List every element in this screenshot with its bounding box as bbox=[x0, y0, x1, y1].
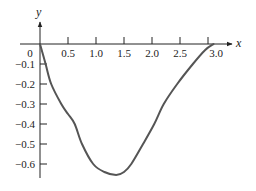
x-axis-label: x bbox=[235, 36, 242, 50]
y-tick-label: −0.6 bbox=[15, 158, 35, 170]
x-ticks: 00.51.01.52.02.53.0 bbox=[27, 37, 223, 59]
y-tick-label: −0.2 bbox=[15, 78, 35, 90]
y-ticks: −0.1−0.2−0.3−0.4−0.5−0.6 bbox=[15, 58, 47, 170]
y-tick-label: −0.5 bbox=[15, 138, 35, 150]
x-tick-label: 1.5 bbox=[117, 47, 131, 59]
x-tick-label: 0.5 bbox=[61, 47, 75, 59]
y-tick-label: −0.4 bbox=[15, 118, 35, 130]
x-tick-label: 2.0 bbox=[145, 47, 159, 59]
line-chart: x y 00.51.01.52.02.53.0 −0.1−0.2−0.3−0.4… bbox=[0, 0, 256, 191]
data-curve bbox=[40, 44, 214, 175]
axes: x y bbox=[20, 5, 242, 178]
y-axis-label: y bbox=[35, 5, 42, 19]
y-tick-label: −0.3 bbox=[15, 98, 35, 110]
x-tick-label: 1.0 bbox=[89, 47, 103, 59]
y-tick-label: −0.1 bbox=[15, 58, 35, 70]
x-tick-label: 3.0 bbox=[209, 47, 223, 59]
x-tick-label: 2.5 bbox=[173, 47, 187, 59]
